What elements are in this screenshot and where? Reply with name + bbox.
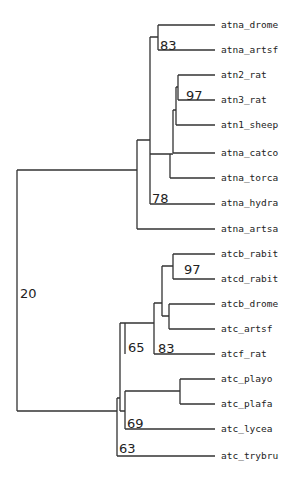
bootstrap-value: 65 [128,340,145,355]
leaf-label: atcb_rabit [221,248,278,259]
leaf-label: atn1_sheep [221,119,278,130]
playo-plafa-node [125,379,215,404]
phylogenetic-tree: atna_drome atna_artsf atn2_rat atn3_rat … [0,0,289,482]
drome-artsf-node [162,304,215,329]
lower-split-node [117,323,120,411]
leaf-label: atna_hydra [221,197,278,208]
rabit-drome-node [154,291,162,316]
leaf-label: atn3_rat [221,94,267,105]
leaf-labels: atna_drome atna_artsf atn2_rat atn3_rat … [221,19,278,461]
leaf-label: atcf_rat [221,348,267,359]
bootstrap-value: 20 [20,286,37,301]
leaf-label: atc_artsf [221,323,272,334]
bootstrap-labels: 83 97 78 20 97 65 83 69 63 [20,38,203,456]
leaf-label: atna_torca [221,172,278,183]
inner-clade-node [150,154,215,178]
leaf-label: atc_plafa [221,398,272,409]
bootstrap-value: 97 [184,262,201,277]
bootstrap-value: 78 [152,191,169,206]
leaf-label: atna_catco [221,147,278,158]
leaf-label: atna_artsa [221,223,278,234]
leaf-label: atcd_rabit [221,273,278,284]
bootstrap-value: 83 [158,341,175,356]
catco-node [170,110,215,154]
bootstrap-value: 69 [127,416,144,431]
leaf-label: atna_artsf [221,44,278,55]
bootstrap-value: 83 [160,38,177,53]
leaf-label: atn2_rat [221,69,267,80]
bootstrap-value: 63 [119,441,136,456]
leaf-label: atna_drome [221,19,278,30]
leaf-label: atc_trybru [221,450,278,461]
leaf-label: atc_playo [221,373,273,384]
leaf-label: atcb_drome [221,298,278,309]
clade-65-node [120,323,125,354]
bootstrap-value: 97 [186,88,203,103]
leaf-label: atc_lycea [221,423,272,434]
